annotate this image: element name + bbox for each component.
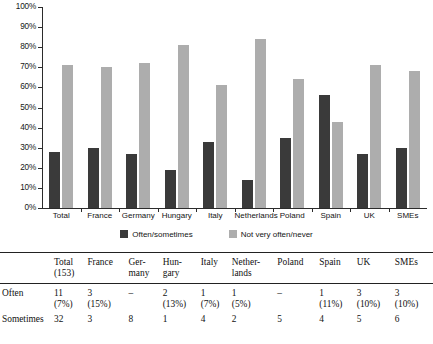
table-row: Often11(7%)3(15%)–2(13%)1(7%)1(5%)–1(11%… <box>0 284 433 310</box>
bar <box>49 152 60 208</box>
cell-count: 1 <box>319 288 355 299</box>
cell-count: 6 <box>395 314 431 325</box>
y-axis-tick-label: 30% <box>0 143 36 152</box>
x-axis-tick-label: Total <box>42 211 81 220</box>
x-axis-tick-label: Spain <box>312 211 351 220</box>
x-axis-tick-label: SMEs <box>389 211 428 220</box>
legend-label: Often/sometimes <box>132 230 192 239</box>
bar-group <box>235 7 274 208</box>
table-cell: – <box>277 284 319 310</box>
table-cell: 3(10%) <box>357 284 395 310</box>
cell-percent: (5%) <box>232 299 276 310</box>
table-cell: 1(7%) <box>201 284 232 310</box>
bar-group <box>389 7 428 208</box>
cell-percent: (7%) <box>201 299 230 310</box>
cell-count: 1 <box>232 288 276 299</box>
table-row-label: Sometimes <box>0 310 54 325</box>
table-header-row: Total(153)FranceGer-manyHun-garyItalyNet… <box>0 253 433 284</box>
bar <box>370 65 381 208</box>
bar <box>255 39 266 208</box>
table-column-header: Italy <box>201 253 232 284</box>
legend-swatch <box>120 230 128 238</box>
y-axis-tick-label: 40% <box>0 123 36 132</box>
table-cell: 1(11%) <box>319 284 357 310</box>
table-column-header: Hun-gary <box>163 253 201 284</box>
cell-count: 4 <box>319 314 355 325</box>
column-header-line: Poland <box>277 257 317 268</box>
table-cell: 32 <box>54 310 87 325</box>
chart-legend: Often/sometimesNot very often/never <box>0 226 433 242</box>
legend-item: Often/sometimes <box>120 230 192 239</box>
cell-count: 3 <box>87 314 126 325</box>
cell-count: 11 <box>54 288 85 299</box>
bar <box>242 180 253 208</box>
cell-count: 5 <box>277 314 317 325</box>
bar <box>396 148 407 208</box>
bar <box>101 67 112 208</box>
y-axis-tick-mark <box>38 208 42 209</box>
cell-percent: (7%) <box>54 299 85 310</box>
table-cell: 11(7%) <box>54 284 87 310</box>
table-column-header: Nether-lands <box>232 253 278 284</box>
x-axis-tick-label: Poland <box>273 211 312 220</box>
bar <box>357 154 368 208</box>
column-header-line: (153) <box>54 268 85 279</box>
y-axis-tick-label: 90% <box>0 22 36 31</box>
bar <box>126 154 137 208</box>
column-header-line: gary <box>163 268 199 279</box>
x-axis-tick-label: Italy <box>196 211 235 220</box>
column-header-line: France <box>87 257 126 268</box>
bar <box>409 71 420 208</box>
bar-group <box>119 7 158 208</box>
table-column-header: Poland <box>277 253 319 284</box>
column-header-line: Hun- <box>163 257 199 268</box>
cell-count: 3 <box>357 288 393 299</box>
cell-count: 8 <box>129 314 161 325</box>
y-axis-tick-label: 80% <box>0 42 36 51</box>
x-axis-tick-label: Netherlands <box>235 211 274 220</box>
table-cell: 4 <box>319 310 357 325</box>
x-axis-tick-label: Hungary <box>158 211 197 220</box>
cell-percent: (10%) <box>395 299 431 310</box>
legend-label: Not very often/never <box>241 230 313 239</box>
bar-group <box>273 7 312 208</box>
table-cell: 2 <box>232 310 278 325</box>
table-cell: 4 <box>201 310 232 325</box>
cell-percent: (10%) <box>357 299 393 310</box>
column-header-line: Total <box>54 257 85 268</box>
cell-percent: (15%) <box>87 299 126 310</box>
x-axis-tick-label: UK <box>350 211 389 220</box>
cell-count: – <box>277 288 317 299</box>
table-corner-cell <box>0 253 54 284</box>
table-column-header: Spain <box>319 253 357 284</box>
cell-percent: (11%) <box>319 299 355 310</box>
table-cell: 2(13%) <box>163 284 201 310</box>
x-axis-tick-label: Germany <box>119 211 158 220</box>
bar <box>216 85 227 208</box>
legend-item: Not very often/never <box>229 230 313 239</box>
table-column-header: France <box>87 253 128 284</box>
data-table: Total(153)FranceGer-manyHun-garyItalyNet… <box>0 252 433 325</box>
table-row: Sometimes32381425456 <box>0 310 433 325</box>
bar <box>203 142 214 208</box>
table-cell: – <box>129 284 163 310</box>
cell-count: 1 <box>163 314 199 325</box>
y-axis-tick-label: 20% <box>0 163 36 172</box>
bar-chart: 0%10%20%30%40%50%60%70%80%90%100% TotalF… <box>0 0 433 222</box>
y-axis-tick-label: 10% <box>0 183 36 192</box>
column-header-line: Spain <box>319 257 355 268</box>
bar <box>319 95 330 208</box>
bar <box>293 79 304 208</box>
table-cell: 5 <box>277 310 319 325</box>
bar-group <box>81 7 120 208</box>
column-header-line: Nether- <box>232 257 276 268</box>
table-column-header: Ger-many <box>129 253 163 284</box>
cell-count: 5 <box>357 314 393 325</box>
bar <box>178 45 189 208</box>
table-cell: 8 <box>129 310 163 325</box>
table-cell: 5 <box>357 310 395 325</box>
x-axis-tick-label: France <box>81 211 120 220</box>
table-column-header: Total(153) <box>54 253 87 284</box>
table-column-header: UK <box>357 253 395 284</box>
y-axis-tick-label: 0% <box>0 203 36 212</box>
